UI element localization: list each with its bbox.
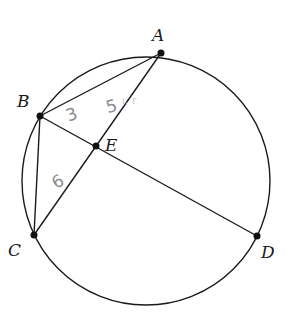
point-e [93,143,100,150]
annotation-ce: 6 [48,170,67,193]
point-c [31,232,38,239]
point-a [158,50,165,57]
chord-bc [34,116,40,235]
label-a: A [150,25,164,45]
point-d [254,233,261,240]
label-d: D [260,242,275,262]
annotation-ae: 5 [104,95,120,117]
chord-ab [40,53,161,116]
annotation-scribble: ı, r [122,94,137,107]
chord-bd [40,116,257,236]
annotation-be: 3 [63,103,80,125]
label-c: C [8,240,21,260]
point-b [37,113,44,120]
label-e: E [104,135,118,155]
circle-diagram: A B C D E 3 5 6 ı, r [0,0,294,320]
label-b: B [16,91,30,111]
